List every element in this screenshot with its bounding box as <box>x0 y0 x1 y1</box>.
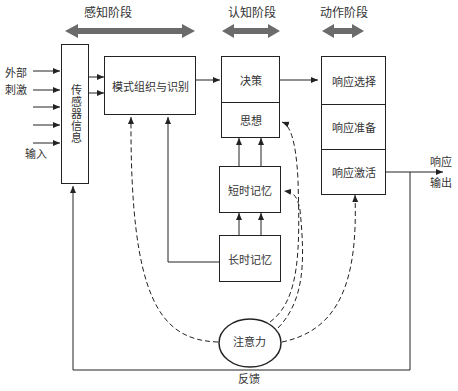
attention-label: 注意力 <box>233 337 266 348</box>
cognition-box: 决策 思想 <box>221 56 280 138</box>
stage-arrows <box>65 24 364 38</box>
response-preparation-label: 响应准备 <box>332 119 376 135</box>
response-selection-label: 响应选择 <box>332 73 376 89</box>
short-term-memory-box: 短时记忆 <box>219 166 281 213</box>
response-output-label-1: 响应 <box>430 157 452 168</box>
response-activation-label: 响应激活 <box>332 164 376 180</box>
stage-label-action: 动作阶段 <box>320 7 368 19</box>
action-box: 响应选择 响应准备 响应激活 <box>321 56 386 195</box>
sensory-info-label: 传感器信息 <box>67 84 83 144</box>
response-preparation-cell: 响应准备 <box>322 105 385 150</box>
stage-label-cognition: 认知阶段 <box>228 7 276 19</box>
thinking-label: 思想 <box>240 112 262 128</box>
pattern-recognition-box: 模式组织与识别 <box>104 56 196 115</box>
pattern-recognition-label: 模式组织与识别 <box>112 78 189 94</box>
long-term-memory-label: 长时记忆 <box>228 251 272 267</box>
response-selection-cell: 响应选择 <box>322 57 385 105</box>
long-term-memory-box: 长时记忆 <box>219 235 281 282</box>
short-term-memory-label: 短时记忆 <box>228 182 272 198</box>
thinking-cell: 思想 <box>222 103 279 136</box>
external-stimuli-label-2: 刺激 <box>5 85 27 96</box>
external-stimuli-label-1: 外部 <box>5 68 27 79</box>
feedback-label: 反馈 <box>238 374 260 385</box>
decision-cell: 决策 <box>222 57 279 103</box>
response-output-label-2: 输出 <box>430 178 452 189</box>
decision-label: 决策 <box>240 72 262 88</box>
response-activation-cell: 响应激活 <box>322 150 385 193</box>
input-label: 输入 <box>25 149 47 160</box>
sensory-info-box: 传感器信息 <box>61 44 89 184</box>
stage-label-perception: 感知阶段 <box>84 7 132 19</box>
